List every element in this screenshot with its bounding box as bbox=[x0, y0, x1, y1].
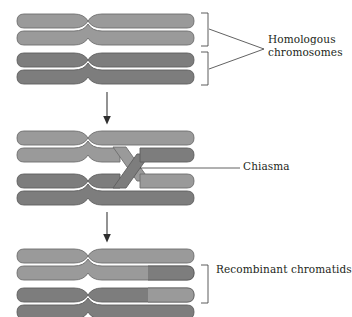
chromatid-mid-3-right bbox=[140, 148, 194, 162]
chromatid-mid-2-right bbox=[140, 174, 194, 188]
chromosome-b-dark bbox=[17, 53, 194, 84]
bracket-homolog-lower bbox=[201, 52, 208, 85]
chromatid-top-1 bbox=[17, 14, 194, 28]
label-chiasma: Chiasma bbox=[243, 160, 290, 173]
panel-bottom-chromosomes bbox=[17, 249, 208, 317]
chromatid-mid-1 bbox=[17, 131, 194, 145]
label-recombinant-chromatids: Recombinant chromatids bbox=[216, 263, 352, 276]
bracket-recombinant bbox=[201, 265, 208, 303]
arrow-top-to-middle bbox=[103, 92, 111, 125]
chromatid-bot-3 bbox=[17, 288, 194, 302]
chromosome-a-light bbox=[17, 14, 194, 45]
panel-middle-chromosomes bbox=[17, 131, 240, 205]
label-homologous-chromosomes: Homologous chromosomes bbox=[268, 33, 343, 58]
chromatid-mid-3-left bbox=[17, 174, 120, 188]
leader-homologous-upper bbox=[209, 29, 264, 49]
label-homologous-line2: chromosomes bbox=[268, 46, 343, 59]
panel-top-chromosomes bbox=[17, 13, 264, 85]
arrow-middle-to-bottom bbox=[103, 212, 111, 243]
label-homologous-line1: Homologous bbox=[268, 33, 343, 46]
leader-homologous-lower bbox=[209, 49, 264, 69]
chromatid-top-3 bbox=[17, 53, 194, 67]
bracket-homolog-upper bbox=[201, 13, 208, 46]
chromatid-bot-1 bbox=[17, 249, 194, 263]
